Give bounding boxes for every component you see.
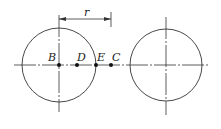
point-e-label: E xyxy=(96,51,105,64)
point-b-label: B xyxy=(47,51,56,64)
dimension-arrow-right-icon xyxy=(104,17,111,21)
point-b-dot xyxy=(57,63,61,67)
diagram-canvas: r B D E C xyxy=(0,0,221,129)
point-d-label: D xyxy=(76,51,86,64)
dimension-arrow-left-icon xyxy=(59,17,66,21)
dimension-label: r xyxy=(84,6,90,19)
point-c-label: C xyxy=(112,51,121,64)
